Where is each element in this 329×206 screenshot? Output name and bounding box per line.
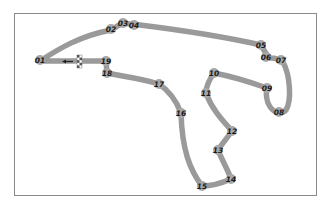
turn-marker: 18	[102, 68, 112, 78]
turn-marker: 05	[256, 40, 266, 50]
turn-marker: 04	[129, 20, 139, 30]
turn-label: 13	[213, 146, 223, 155]
turn-label: 07	[276, 56, 287, 65]
turn-label: 02	[106, 25, 116, 34]
turn-marker: 12	[227, 126, 237, 136]
turn-label: 09	[262, 84, 272, 93]
turn-label: 04	[129, 21, 139, 30]
turn-marker: 02	[106, 24, 116, 34]
turn-marker: 07	[276, 55, 287, 65]
turn-label: 14	[226, 175, 236, 184]
turn-marker: 19	[101, 56, 111, 66]
turn-label: 08	[274, 108, 284, 117]
turn-label: 06	[261, 53, 271, 62]
turn-marker: 06	[261, 52, 271, 62]
turn-marker: 14	[226, 174, 236, 184]
turn-label: 16	[176, 109, 186, 118]
turn-marker: 16	[176, 108, 186, 118]
turn-label: 12	[227, 127, 237, 136]
turn-marker: 11	[201, 88, 211, 98]
turn-marker: 03	[118, 18, 128, 28]
turn-label: 01	[35, 56, 45, 65]
turn-label: 05	[256, 41, 266, 50]
turn-label: 11	[201, 89, 211, 98]
turn-label: 03	[118, 19, 128, 28]
turn-label: 17	[154, 80, 165, 89]
turn-marker: 10	[209, 68, 219, 78]
turn-marker: 08	[274, 107, 284, 117]
turn-marker: 13	[213, 145, 223, 155]
turn-label: 15	[197, 182, 207, 191]
start-finish-line	[77, 55, 82, 68]
turn-label: 18	[102, 69, 112, 78]
track-svg: 01020304050607080910111213141516171819	[0, 0, 329, 206]
turn-marker: 09	[262, 83, 272, 93]
turn-label: 19	[101, 57, 111, 66]
turn-marker: 15	[197, 181, 207, 191]
turn-marker: 01	[35, 55, 45, 65]
turn-label: 10	[209, 69, 219, 78]
circuit-diagram: 01020304050607080910111213141516171819	[0, 0, 329, 206]
track-path	[40, 23, 290, 186]
turn-marker: 17	[154, 79, 165, 89]
